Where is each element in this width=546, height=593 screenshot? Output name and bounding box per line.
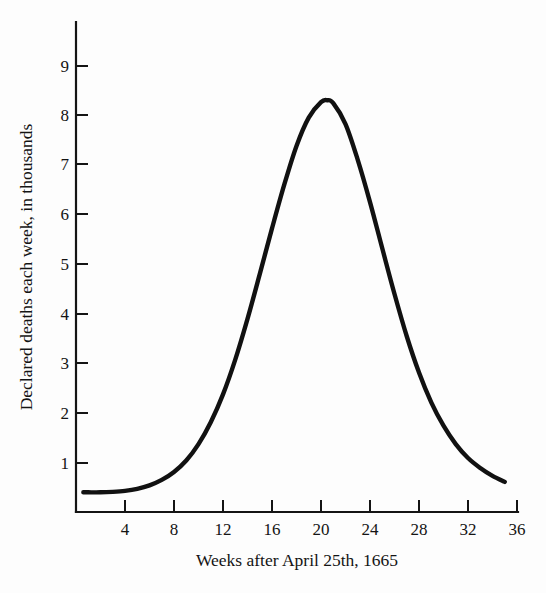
y-axis-tick-labels: 9 8 7 6 5 4 3 2 1 [61, 57, 70, 473]
y-tick-label-5: 5 [61, 255, 70, 274]
x-axis-title: Weeks after April 25th, 1665 [196, 550, 398, 570]
plague-death-rate-chart: 9 8 7 6 5 4 3 2 1 4 8 12 16 [0, 0, 546, 593]
y-axis-title: Declared deaths each week, in thousands [16, 123, 36, 410]
x-tick-label-32: 32 [460, 520, 477, 539]
x-tick-label-24: 24 [362, 520, 380, 539]
y-tick-label-9: 9 [61, 57, 70, 76]
y-axis-ticks [76, 66, 88, 463]
chart-figure: 9 8 7 6 5 4 3 2 1 4 8 12 16 [0, 0, 546, 593]
y-tick-label-1: 1 [61, 454, 70, 473]
x-tick-label-8: 8 [170, 520, 179, 539]
x-axis-tick-labels: 4 8 12 16 20 24 28 32 36 [121, 520, 526, 539]
x-tick-label-28: 28 [411, 520, 428, 539]
y-tick-label-8: 8 [61, 106, 70, 125]
y-tick-label-4: 4 [61, 305, 70, 324]
x-tick-label-12: 12 [215, 520, 232, 539]
death-rate-curve [83, 100, 504, 492]
y-tick-label-6: 6 [61, 205, 70, 224]
x-tick-label-16: 16 [264, 520, 281, 539]
x-tick-label-36: 36 [509, 520, 526, 539]
x-tick-label-4: 4 [121, 520, 130, 539]
y-tick-label-2: 2 [61, 404, 70, 423]
x-tick-label-20: 20 [313, 520, 330, 539]
y-tick-label-3: 3 [61, 354, 70, 373]
y-tick-label-7: 7 [61, 155, 70, 174]
x-axis-ticks [125, 500, 517, 512]
